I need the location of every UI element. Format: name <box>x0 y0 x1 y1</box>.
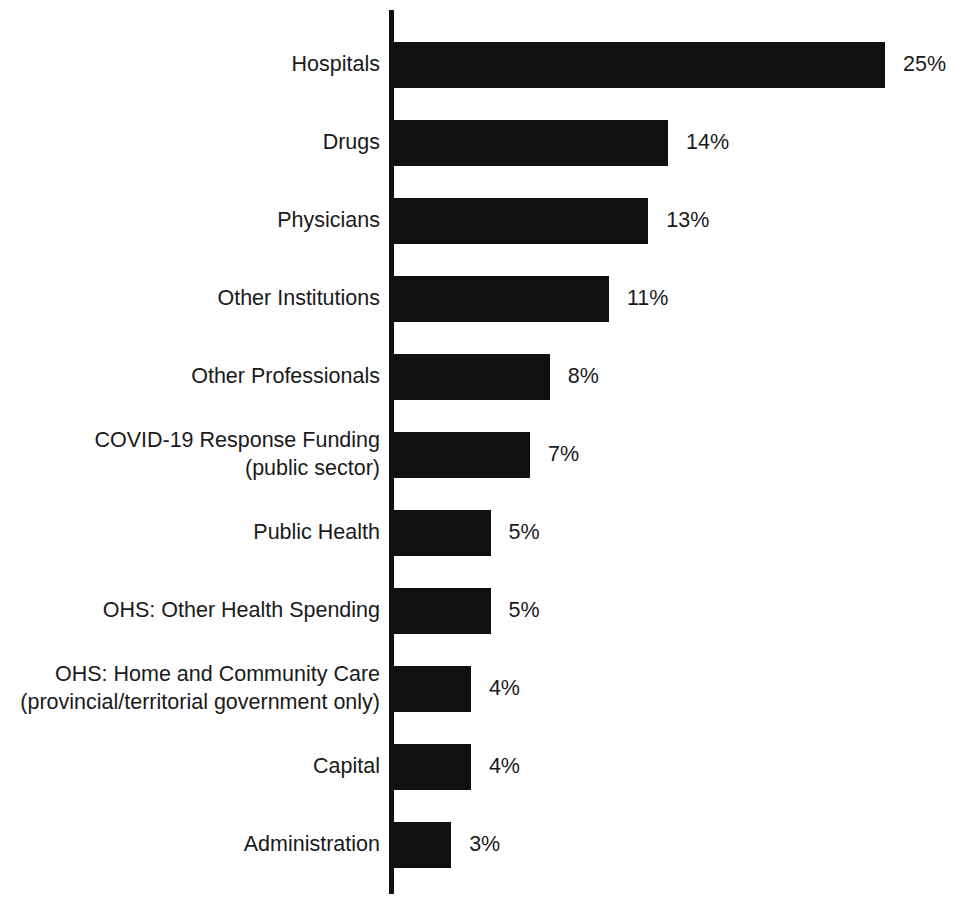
bar <box>392 42 885 88</box>
bar-value-label: 25% <box>903 54 946 76</box>
bar-row: Other Institutions11% <box>0 276 959 322</box>
bar-row: Drugs14% <box>0 120 959 166</box>
bar-value-label: 14% <box>686 132 729 154</box>
category-label: Public Health <box>253 518 380 546</box>
bar <box>392 510 491 556</box>
category-label: Other Professionals <box>191 362 380 390</box>
category-label: Administration <box>244 830 380 858</box>
bar <box>392 744 471 790</box>
bar-chart: Hospitals25%Drugs14%Physicians13%Other I… <box>0 0 959 908</box>
bar-row: OHS: Other Health Spending5% <box>0 588 959 634</box>
bar-value-label: 13% <box>666 210 709 232</box>
bar-value-label: 3% <box>469 834 500 856</box>
bar <box>392 354 550 400</box>
bar-value-label: 8% <box>568 366 599 388</box>
bar-row: Physicians13% <box>0 198 959 244</box>
category-label: Capital <box>313 752 380 780</box>
category-label: Other Institutions <box>217 284 380 312</box>
bar-row: Administration3% <box>0 822 959 868</box>
bar-row: OHS: Home and Community Care (provincial… <box>0 666 959 712</box>
bar <box>392 120 668 166</box>
bar <box>392 276 609 322</box>
bar-value-label: 7% <box>548 444 579 466</box>
category-label: Drugs <box>323 128 380 156</box>
category-label: COVID-19 Response Funding (public sector… <box>94 426 380 482</box>
bar <box>392 432 530 478</box>
category-label: Hospitals <box>292 50 380 78</box>
bar-row: Public Health5% <box>0 510 959 556</box>
bar-row: COVID-19 Response Funding (public sector… <box>0 432 959 478</box>
bar <box>392 198 648 244</box>
bar-value-label: 5% <box>509 600 540 622</box>
bar-row: Other Professionals8% <box>0 354 959 400</box>
bar-value-label: 4% <box>489 678 520 700</box>
bar-row: Hospitals25% <box>0 42 959 88</box>
category-label: Physicians <box>277 206 380 234</box>
category-label: OHS: Other Health Spending <box>103 596 380 624</box>
bar-value-label: 5% <box>509 522 540 544</box>
bar-value-label: 11% <box>627 288 668 310</box>
category-label: OHS: Home and Community Care (provincial… <box>20 660 380 716</box>
bar <box>392 822 451 868</box>
bar-row: Capital4% <box>0 744 959 790</box>
bar <box>392 666 471 712</box>
bar <box>392 588 491 634</box>
bar-value-label: 4% <box>489 756 520 778</box>
